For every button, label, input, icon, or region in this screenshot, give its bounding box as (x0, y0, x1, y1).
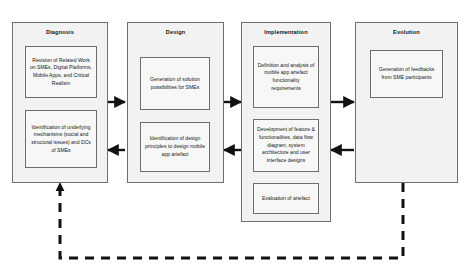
step-evolution-step-1[interactable]: Generation of feedbacks from SME partici… (370, 50, 443, 98)
phase-title-design: Design (166, 30, 186, 36)
step-design-step-1[interactable]: Generation of solution possibilities for… (140, 57, 210, 110)
step-label: Identification of design principles to d… (144, 135, 206, 158)
phase-title-evolution: Evolution (393, 30, 420, 36)
phase-title-implementation: Implementation (264, 30, 307, 36)
step-design-step-2[interactable]: Identification of design principles to d… (140, 122, 210, 172)
step-label: Definition and analysis of mobile app ar… (257, 62, 315, 93)
step-implementation-step-2[interactable]: Development of feature & functionalities… (253, 119, 319, 172)
step-implementation-step-3[interactable]: Evaluation of artefact (253, 183, 319, 214)
step-label: Revision of Related Work on SMEs, Digita… (29, 57, 93, 88)
step-diagnosis-step-1[interactable]: Revision of Related Work on SMEs, Digita… (25, 46, 97, 98)
step-label: Evaluation of artefact (257, 195, 315, 203)
step-label: Generation of feedbacks from SME partici… (374, 66, 439, 81)
step-diagnosis-step-2[interactable]: Identification of underlying mechanisms … (25, 110, 97, 168)
step-label: Identification of underlying mechanisms … (29, 124, 93, 155)
step-implementation-step-1[interactable]: Definition and analysis of mobile app ar… (253, 46, 319, 108)
feedback-loop-evolution-to-diagnosis (60, 183, 403, 258)
diagram-canvas: Diagnosis Revision of Related Work on SM… (0, 0, 465, 271)
step-label: Generation of solution possibilities for… (144, 76, 206, 91)
feedback-loop-arrowhead (56, 182, 65, 191)
phase-evolution[interactable]: Evolution (355, 22, 458, 183)
step-label: Development of feature & functionalities… (257, 126, 315, 165)
phase-title-diagnosis: Diagnosis (46, 30, 74, 36)
